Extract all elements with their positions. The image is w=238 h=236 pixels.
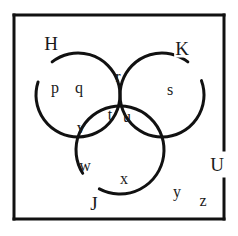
- element-label-z: z: [199, 193, 206, 209]
- element-label-s: s: [167, 82, 173, 98]
- element-label-r: r: [115, 69, 120, 85]
- element-label-y: y: [173, 184, 181, 200]
- element-label-p: p: [51, 80, 59, 96]
- venn-diagram-figure: HKJU pqrstuvwxyz: [0, 0, 238, 236]
- element-label-q: q: [75, 80, 83, 96]
- element-label-x: x: [120, 171, 128, 187]
- set-label-j: J: [89, 194, 98, 213]
- universe-label-u: U: [209, 155, 225, 174]
- element-label-u: u: [123, 109, 131, 125]
- set-circle-k: [120, 53, 204, 137]
- set-label-k: K: [174, 39, 190, 58]
- element-label-v: v: [77, 120, 85, 136]
- set-label-h: H: [43, 34, 59, 53]
- element-label-w: w: [79, 158, 91, 174]
- element-label-t: t: [108, 107, 112, 123]
